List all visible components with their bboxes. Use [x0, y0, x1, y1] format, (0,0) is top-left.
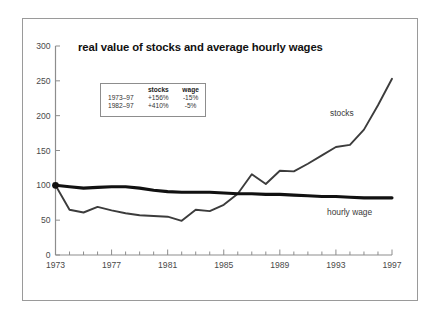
legend-cell-period: 1982–97	[101, 102, 141, 110]
legend-cell-wage: -15%	[176, 94, 205, 102]
legend-row: 1982–97 +410% -5%	[101, 102, 205, 110]
y-axis-tick-label: 200	[36, 111, 51, 121]
series-line-hourly-wage	[56, 185, 393, 198]
legend-cell-stocks: +156%	[141, 94, 177, 102]
x-axis-tick-label: 1989	[270, 260, 289, 270]
series-label-hourly-wage: hourly wage	[327, 207, 372, 217]
x-axis-tick-labels: 1973197719811985198919931997	[46, 260, 402, 270]
summary-legend-table: stocks wage 1973–97 +156% -15% 1982–97 +…	[101, 85, 205, 110]
legend-row: 1973–97 +156% -15%	[101, 94, 205, 102]
y-axis-tick-label: 250	[36, 76, 51, 86]
x-axis-tick-label: 1985	[214, 260, 233, 270]
y-axis-tick-label: 50	[41, 215, 51, 225]
legend-header-row: stocks wage	[101, 85, 205, 94]
x-axis-tick-label: 1977	[102, 260, 121, 270]
x-axis-tick-label: 1997	[382, 260, 401, 270]
legend-header-wage: wage	[176, 85, 205, 94]
y-axis-tick-label: 300	[36, 41, 51, 51]
chart-title: real value of stocks and average hourly …	[78, 41, 378, 53]
summary-legend-box: stocks wage 1973–97 +156% -15% 1982–97 +…	[100, 83, 206, 117]
legend-header-stocks: stocks	[141, 85, 177, 94]
origin-point-marker	[52, 182, 59, 189]
legend-cell-wage: -5%	[176, 102, 205, 110]
x-axis-tick-label: 1993	[326, 260, 345, 270]
legend-table-head: stocks wage	[101, 85, 205, 94]
x-axis-tick-label: 1981	[158, 260, 177, 270]
chart-axes	[56, 46, 393, 255]
legend-table-body: 1973–97 +156% -15% 1982–97 +410% -5%	[101, 94, 205, 110]
legend-cell-period: 1973–97	[101, 94, 141, 102]
legend-cell-stocks: +410%	[141, 102, 177, 110]
chart-page: 050100150200250300 197319771981198519891…	[0, 0, 441, 320]
x-axis-tick-label: 1973	[46, 260, 65, 270]
x-axis-ticks	[56, 250, 393, 256]
y-axis-tick-label: 150	[36, 146, 51, 156]
series-label-stocks: stocks	[330, 108, 354, 118]
y-axis-tick-label: 100	[36, 180, 51, 190]
y-axis-tick-labels: 050100150200250300	[36, 41, 51, 260]
y-axis-ticks	[56, 46, 61, 255]
legend-header-period	[101, 85, 141, 94]
